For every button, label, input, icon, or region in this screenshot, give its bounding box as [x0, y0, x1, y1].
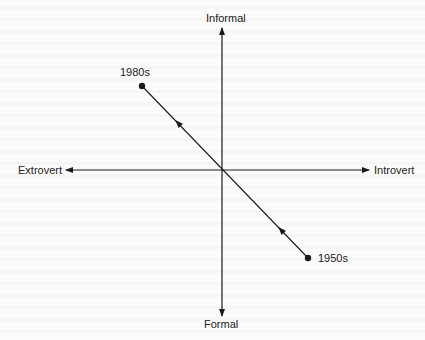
point-label-1980s: 1980s — [120, 66, 150, 78]
diagram-canvas: Informal Formal Extrovert Introvert 1980… — [0, 0, 425, 340]
point-label-1950s: 1950s — [318, 252, 348, 264]
axes-diagram — [0, 0, 425, 340]
axis-label-informal: Informal — [206, 12, 246, 24]
point-1980s-dot — [139, 83, 145, 89]
axis-label-introvert: Introvert — [374, 164, 414, 176]
axis-label-formal: Formal — [204, 318, 238, 330]
axis-label-extrovert: Extrovert — [18, 164, 62, 176]
point-1950s-dot — [305, 255, 311, 261]
